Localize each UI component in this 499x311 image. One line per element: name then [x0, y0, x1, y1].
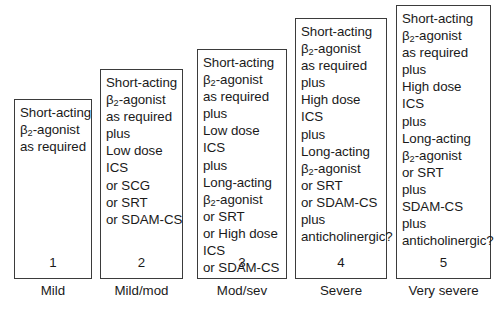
- line-text-main: β: [106, 92, 114, 107]
- step-number-5: 5: [397, 255, 490, 271]
- step-text-line: Short-acting: [106, 74, 180, 91]
- step-box-4[interactable]: Short-actingβ2-agonistas requiredplusHig…: [295, 18, 387, 279]
- step-column-5: Short-actingβ2-agonistas requiredplusHig…: [396, 0, 491, 311]
- line-text-tail: -agonist: [33, 122, 80, 137]
- line-text-main: High dose: [301, 92, 360, 107]
- step-box-1[interactable]: Short-actingβ2-agonistas required1: [14, 99, 92, 279]
- line-text-main: plus: [301, 75, 325, 90]
- step-box-2[interactable]: Short-actingβ2-agonistas requiredplusLow…: [100, 69, 183, 279]
- step-text-line: as required: [301, 57, 384, 74]
- step-box-text-4: Short-actingβ2-agonistas requiredplusHig…: [301, 23, 384, 245]
- step-text-line: or SRT: [106, 194, 180, 211]
- line-text-main: Low dose: [203, 123, 260, 138]
- step-text-line: as required: [402, 44, 488, 61]
- step-text-line: High dose: [402, 78, 488, 95]
- step-text-line: as required: [106, 108, 180, 125]
- step-number-2: 2: [101, 255, 182, 271]
- step-text-line: Long-acting: [301, 143, 384, 160]
- step-text-line: or High dose: [203, 225, 284, 242]
- line-text-main: or SRT: [106, 195, 148, 210]
- step-column-3: Short-actingβ2-agonistas requiredplusLow…: [197, 0, 287, 311]
- severity-label-2: Mild/mod: [94, 283, 189, 299]
- line-text-tail: -agonist: [314, 161, 361, 176]
- severity-label-4: Severe: [289, 283, 393, 299]
- step-text-line: Long-acting: [402, 130, 488, 147]
- step-column-4: Short-actingβ2-agonistas requiredplusHig…: [295, 0, 387, 311]
- line-text-tail: -agonist: [216, 72, 263, 87]
- line-text-subscript: 2: [410, 154, 415, 164]
- step-text-line: plus: [301, 126, 384, 143]
- step-text-line: Short-acting: [20, 104, 89, 121]
- line-text-subscript: 2: [211, 78, 216, 88]
- step-box-3[interactable]: Short-actingβ2-agonistas requiredplusLow…: [197, 49, 287, 279]
- step-text-line: β2-agonist: [402, 27, 488, 44]
- step-text-line: SDAM-CS: [402, 198, 488, 215]
- step-box-5[interactable]: Short-actingβ2-agonistas requiredplusHig…: [396, 5, 491, 279]
- line-text-main: β: [203, 192, 211, 207]
- step-text-line: β2-agonist: [203, 191, 284, 208]
- step-text-line: plus: [301, 211, 384, 228]
- line-text-main: Low dose: [106, 143, 163, 158]
- line-text-main: plus: [106, 126, 130, 141]
- line-text-subscript: 2: [309, 167, 314, 177]
- line-text-main: plus: [301, 212, 325, 227]
- step-text-line: anticholinergic?: [402, 232, 488, 249]
- step-text-line: or SDAM-CS: [301, 194, 384, 211]
- step-box-text-5: Short-actingβ2-agonistas requiredplusHig…: [402, 10, 488, 249]
- line-text-main: or SDAM-CS: [301, 195, 377, 210]
- line-text-subscript: 2: [114, 98, 119, 108]
- line-text-main: β: [20, 122, 28, 137]
- line-text-main: as required: [106, 109, 172, 124]
- step-number-1: 1: [15, 255, 91, 271]
- line-text-main: or High dose: [203, 226, 278, 241]
- line-text-main: β: [301, 161, 309, 176]
- step-text-line: plus: [402, 61, 488, 78]
- line-text-main: β: [301, 41, 309, 56]
- step-text-line: ICS: [301, 108, 384, 125]
- line-text-main: SDAM-CS: [402, 199, 463, 214]
- line-text-main: plus: [402, 216, 426, 231]
- step-text-line: plus: [203, 157, 284, 174]
- line-text-main: Long-acting: [402, 131, 471, 146]
- line-text-main: plus: [402, 62, 426, 77]
- step-text-line: ICS: [106, 159, 180, 176]
- severity-label-3: Mod/sev: [191, 283, 293, 299]
- line-text-main: ICS: [301, 109, 323, 124]
- step-box-text-3: Short-actingβ2-agonistas requiredplusLow…: [203, 54, 284, 276]
- line-text-main: or SCG: [106, 178, 150, 193]
- line-text-main: Short-acting: [106, 75, 177, 90]
- line-text-main: ICS: [402, 96, 424, 111]
- step-text-line: β2-agonist: [301, 160, 384, 177]
- step-text-line: as required: [20, 138, 89, 155]
- step-text-line: or SRT: [402, 164, 488, 181]
- line-text-main: plus: [301, 127, 325, 142]
- line-text-main: plus: [402, 114, 426, 129]
- line-text-main: anticholinergic?: [402, 233, 494, 248]
- step-column-1: Short-actingβ2-agonistas required1Mild: [14, 0, 92, 311]
- line-text-main: as required: [402, 45, 468, 60]
- line-text-main: or SRT: [301, 178, 343, 193]
- line-text-main: or SRT: [402, 165, 444, 180]
- asthma-stepwise-treatment-diagram: Short-actingβ2-agonistas required1MildSh…: [0, 0, 499, 311]
- step-text-line: plus: [203, 105, 284, 122]
- step-box-text-1: Short-actingβ2-agonistas required: [20, 104, 89, 155]
- line-text-main: plus: [203, 158, 227, 173]
- step-text-line: β2-agonist: [203, 71, 284, 88]
- severity-label-5: Very severe: [390, 283, 497, 299]
- line-text-main: plus: [203, 106, 227, 121]
- severity-label-1: Mild: [8, 283, 98, 299]
- line-text-main: Short-acting: [402, 11, 473, 26]
- line-text-main: as required: [203, 89, 269, 104]
- step-text-line: Low dose: [106, 142, 180, 159]
- step-text-line: ICS: [203, 139, 284, 156]
- line-text-main: Long-acting: [301, 144, 370, 159]
- step-text-line: or SDAM-CS: [106, 211, 180, 228]
- step-text-line: β2-agonist: [20, 121, 89, 138]
- line-text-main: ICS: [203, 140, 225, 155]
- line-text-subscript: 2: [309, 47, 314, 57]
- line-text-main: β: [203, 72, 211, 87]
- line-text-main: plus: [402, 182, 426, 197]
- step-text-line: plus: [301, 74, 384, 91]
- step-text-line: Long-acting: [203, 174, 284, 191]
- line-text-tail: -agonist: [314, 41, 361, 56]
